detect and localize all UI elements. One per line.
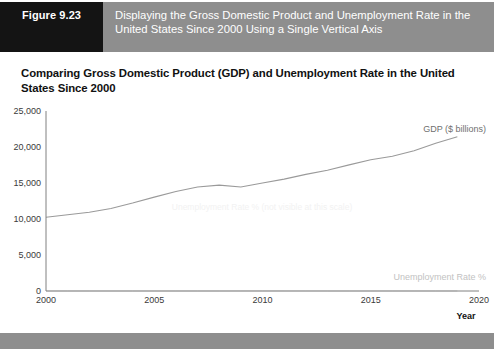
y-tick-label: 5,000 — [18, 250, 41, 260]
figure-number-block: Figure 9.23 — [0, 2, 103, 52]
x-tick-label: 2015 — [361, 295, 381, 305]
figure-number-label: Figure 9.23 — [22, 9, 81, 21]
bottom-gray-bar — [0, 333, 494, 349]
chart-plot-area: Unemployment Rate % (not visible at this… — [0, 100, 494, 325]
gdp-series-label: GDP ($ billions) — [423, 124, 486, 134]
x-tick-label: 2005 — [144, 295, 164, 305]
y-tick-label: 15,000 — [13, 178, 41, 188]
x-tick-label: 2010 — [252, 295, 272, 305]
x-tick-label: 2000 — [36, 295, 56, 305]
line-chart-svg: Unemployment Rate % (not visible at this… — [0, 100, 494, 325]
watermark-label: Unemployment Rate % (not visible at this… — [172, 202, 353, 212]
y-axis-tick-labels: 05,00010,00015,00020,00025,000 — [13, 106, 41, 296]
figure-header-band: Figure 9.23 Displaying the Gross Domesti… — [0, 2, 494, 52]
y-tick-label: 25,000 — [13, 106, 41, 116]
unemployment-series-label: Unemployment Rate % — [393, 272, 486, 282]
x-axis-name-label: Year — [456, 311, 476, 321]
x-axis-tick-labels: 20002005201020152020 — [36, 295, 489, 305]
y-tick-label: 20,000 — [13, 142, 41, 152]
y-tick-label: 10,000 — [13, 214, 41, 224]
x-tick-label: 2020 — [469, 295, 489, 305]
figure-caption: Displaying the Gross Domestic Product an… — [103, 2, 494, 52]
chart-title: Comparing Gross Domestic Product (GDP) a… — [21, 66, 471, 95]
